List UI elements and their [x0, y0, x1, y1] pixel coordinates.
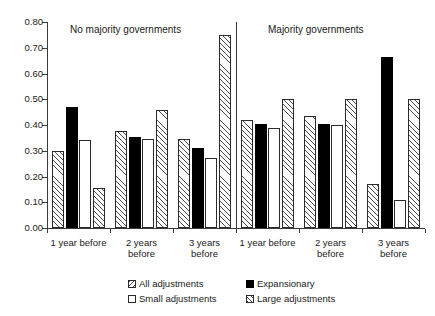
bar-small	[268, 128, 280, 228]
bar-exp	[129, 137, 141, 228]
legend-item: Expansionary	[246, 279, 368, 289]
chart-legend: All adjustmentsExpansionarySmall adjustm…	[128, 276, 368, 306]
bar-exp	[381, 57, 393, 228]
bar-all	[178, 139, 190, 228]
bar-exp	[66, 107, 78, 228]
x-axis-label: 1 year before	[47, 237, 110, 248]
legend-item: Small adjustments	[128, 294, 246, 304]
x-tick-mark	[299, 229, 300, 233]
plot-area	[47, 22, 425, 228]
y-tick-label: 0.80	[25, 17, 44, 27]
y-tick-label: 0.20	[25, 172, 44, 182]
legend-label: All adjustments	[139, 279, 203, 289]
y-tick-label: 0.10	[25, 197, 44, 207]
x-axis-label: 2 years before	[299, 237, 362, 259]
x-axis-label: 1 year before	[236, 237, 299, 248]
legend-label: Small adjustments	[139, 294, 217, 304]
bar-all	[367, 184, 379, 228]
bar-small	[142, 139, 154, 228]
bar-exp	[255, 124, 267, 228]
x-axis-label: 3 years before	[362, 237, 425, 259]
bar-large	[408, 99, 420, 228]
y-tick-label: 0.60	[25, 69, 44, 79]
y-tick-label: 0.00	[25, 223, 44, 233]
legend-label: Expansionary	[257, 279, 315, 289]
bar-exp	[318, 124, 330, 228]
bar-all	[304, 116, 316, 228]
bar-chart-figure: 0.000.100.200.300.400.500.600.700.80 No …	[0, 0, 435, 316]
x-axis-label: 2 years before	[110, 237, 173, 259]
bar-large	[282, 99, 294, 228]
bar-exp	[192, 148, 204, 228]
bar-small	[79, 140, 91, 228]
y-tick-label: 0.70	[25, 43, 44, 53]
bar-small	[331, 125, 343, 228]
bar-large	[93, 188, 105, 228]
bar-large	[156, 110, 168, 228]
bar-large	[219, 35, 231, 228]
legend-swatch-all	[128, 280, 136, 288]
bar-small	[394, 200, 406, 228]
x-tick-mark	[236, 229, 237, 233]
bar-all	[115, 131, 127, 228]
x-tick-mark	[362, 229, 363, 233]
x-axis-label: 3 years before	[173, 237, 236, 259]
bar-large	[345, 99, 357, 228]
x-tick-mark	[173, 229, 174, 233]
y-tick-label: 0.30	[25, 146, 44, 156]
x-tick-mark	[110, 229, 111, 233]
y-tick-label: 0.50	[25, 94, 44, 104]
legend-item: Large adjustments	[246, 294, 368, 304]
x-tick-mark	[425, 229, 426, 233]
legend-item: All adjustments	[128, 279, 246, 289]
bar-all	[241, 120, 253, 228]
legend-label: Large adjustments	[257, 294, 335, 304]
legend-swatch-small	[128, 295, 136, 303]
legend-swatch-exp	[246, 280, 254, 288]
bar-small	[205, 158, 217, 228]
x-tick-mark	[47, 229, 48, 233]
legend-swatch-large	[246, 295, 254, 303]
y-tick-label: 0.40	[25, 120, 44, 130]
bar-all	[52, 151, 64, 228]
